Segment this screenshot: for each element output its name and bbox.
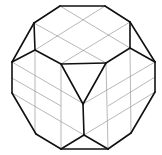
- grid-line: [12, 78, 61, 106]
- edge-BL-L: [36, 134, 61, 149]
- grid-line: [83, 62, 155, 104]
- polyhedron-diagram: [0, 0, 162, 155]
- edge-T3-BC: [83, 104, 84, 135]
- edge-T1-T2: [61, 63, 106, 64]
- edge-F2-R: [131, 92, 155, 133]
- edge-G-T1: [35, 50, 61, 64]
- edge-H-T2: [106, 48, 130, 63]
- edge-L-E2: [12, 93, 36, 134]
- grid-line: [106, 63, 108, 149]
- edge-B-D: [105, 6, 130, 22]
- edge-BC-BR: [84, 135, 108, 149]
- edge-BC-BL: [61, 135, 84, 149]
- grid-line: [12, 62, 84, 104]
- edge-D-F: [130, 22, 155, 62]
- grid-line: [130, 48, 131, 133]
- grid-line: [12, 93, 84, 135]
- grid-line: [84, 92, 155, 135]
- edge-C-G: [34, 23, 35, 50]
- polyhedron-edges: [12, 6, 155, 149]
- edge-T2-T3: [83, 63, 106, 104]
- edge-T1-T3: [61, 64, 83, 104]
- edge-R-BR: [108, 133, 131, 149]
- grid-line: [61, 22, 130, 64]
- grid-line: [108, 77, 155, 106]
- edge-C-A: [34, 6, 60, 23]
